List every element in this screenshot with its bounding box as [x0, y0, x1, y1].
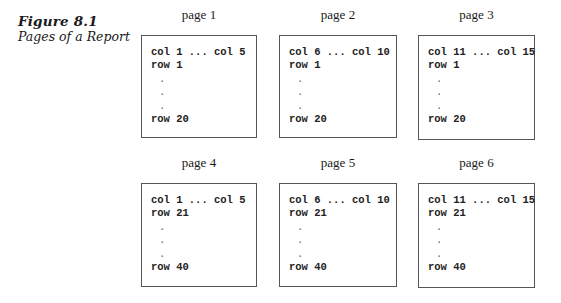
page-label: page 6 [418, 155, 535, 171]
page-panel-1: page 1 col 1 ... col 5 row 1 . . . row 2… [141, 35, 257, 138]
ellipsis-dot: . [289, 234, 396, 247]
page-panel-5: page 5 col 6 ... col 10 row 21 . . . row… [279, 183, 397, 287]
ellipsis-dot: . [428, 100, 534, 113]
page-panel-6: page 6 col 11 ... col 15 row 21 . . . ro… [418, 183, 535, 288]
first-row: row 21 [289, 207, 396, 220]
column-range: col 1 ... col 5 [151, 194, 256, 207]
page-label: page 5 [279, 155, 397, 171]
first-row: row 1 [289, 59, 396, 72]
last-row: row 20 [151, 113, 256, 126]
figure-caption: Figure 8.1 Pages of a Report [18, 13, 130, 45]
ellipsis-dot: . [428, 86, 534, 99]
column-range: col 11 ... col 15 [428, 46, 534, 59]
ellipsis-dot: . [289, 248, 396, 261]
page-label: page 1 [141, 7, 257, 23]
ellipsis-dot: . [151, 234, 256, 247]
first-row: row 1 [151, 59, 256, 72]
ellipsis-dot: . [151, 221, 256, 234]
last-row: row 40 [428, 261, 534, 274]
column-range: col 6 ... col 10 [289, 46, 396, 59]
page-panel-2: page 2 col 6 ... col 10 row 1 . . . row … [279, 35, 397, 138]
column-range: col 6 ... col 10 [289, 194, 396, 207]
ellipsis-dot: . [151, 248, 256, 261]
last-row: row 20 [428, 113, 534, 126]
ellipsis-dot: . [289, 73, 396, 86]
page-panel-3: page 3 col 11 ... col 15 row 1 . . . row… [418, 35, 535, 140]
first-row: row 21 [428, 207, 534, 220]
ellipsis-dot: . [289, 86, 396, 99]
page-box: col 1 ... col 5 row 21 . . . row 40 [141, 183, 257, 287]
page-label: page 3 [418, 7, 535, 23]
last-row: row 20 [289, 113, 396, 126]
last-row: row 40 [151, 261, 256, 274]
ellipsis-dot: . [289, 221, 396, 234]
figure-title: Pages of a Report [18, 29, 130, 45]
ellipsis-dot: . [151, 86, 256, 99]
ellipsis-dot: . [428, 73, 534, 86]
ellipsis-dot: . [428, 234, 534, 247]
first-row: row 21 [151, 207, 256, 220]
ellipsis-dot: . [428, 221, 534, 234]
figure-number: Figure 8.1 [18, 13, 130, 29]
page-label: page 4 [141, 155, 257, 171]
page-box: col 11 ... col 15 row 21 . . . row 40 [418, 183, 535, 288]
page-label: page 2 [279, 7, 397, 23]
column-range: col 1 ... col 5 [151, 46, 256, 59]
page-box: col 6 ... col 10 row 21 . . . row 40 [279, 183, 397, 287]
ellipsis-dot: . [289, 100, 396, 113]
page-box: col 6 ... col 10 row 1 . . . row 20 [279, 35, 397, 138]
first-row: row 1 [428, 59, 534, 72]
last-row: row 40 [289, 261, 396, 274]
page-box: col 11 ... col 15 row 1 . . . row 20 [418, 35, 535, 140]
column-range: col 11 ... col 15 [428, 194, 534, 207]
page-panel-4: page 4 col 1 ... col 5 row 21 . . . row … [141, 183, 257, 287]
ellipsis-dot: . [428, 248, 534, 261]
page-box: col 1 ... col 5 row 1 . . . row 20 [141, 35, 257, 138]
ellipsis-dot: . [151, 73, 256, 86]
ellipsis-dot: . [151, 100, 256, 113]
